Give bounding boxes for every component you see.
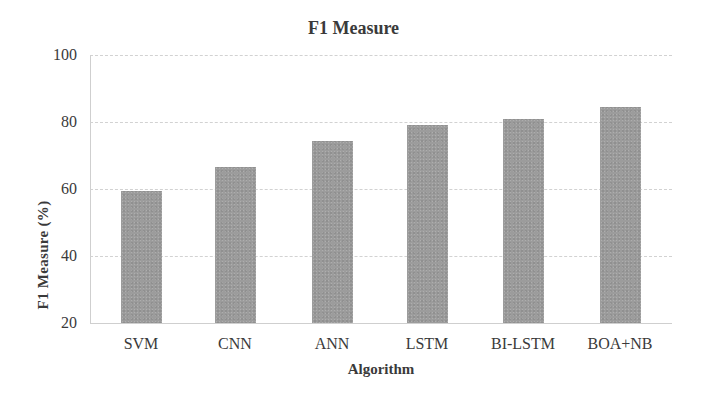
gridline: [90, 55, 672, 56]
gridline: [90, 189, 672, 190]
x-tick-label: BOA+NB: [572, 335, 668, 353]
x-tick-label: LSTM: [379, 335, 475, 353]
y-tick-label: 40: [27, 247, 77, 265]
bar-bi-lstm: [503, 119, 544, 323]
x-tick-label: SVM: [93, 335, 189, 353]
gridline: [90, 122, 672, 123]
x-tick-label: CNN: [187, 335, 283, 353]
y-tick-label: 20: [27, 314, 77, 332]
bar-lstm: [407, 125, 448, 323]
x-axis-label: Algorithm: [90, 361, 672, 378]
gridline: [90, 256, 672, 257]
x-tick-label: ANN: [284, 335, 380, 353]
y-tick-label: 60: [27, 180, 77, 198]
gridline: [90, 323, 672, 324]
y-tick-label: 80: [27, 113, 77, 131]
plot-area: 20406080100SVMCNNANNLSTMBI-LSTMBOA+NB: [90, 55, 672, 323]
bar-chart: F1 Measure F1 Measure (%) Algorithm 2040…: [0, 0, 707, 399]
bar-svm: [121, 191, 162, 323]
bar-ann: [312, 141, 353, 323]
bar-cnn: [215, 167, 256, 323]
bar-boa-nb: [600, 107, 641, 323]
y-tick-label: 100: [27, 46, 77, 64]
chart-title: F1 Measure: [0, 18, 707, 39]
x-tick-label: BI-LSTM: [475, 335, 571, 353]
